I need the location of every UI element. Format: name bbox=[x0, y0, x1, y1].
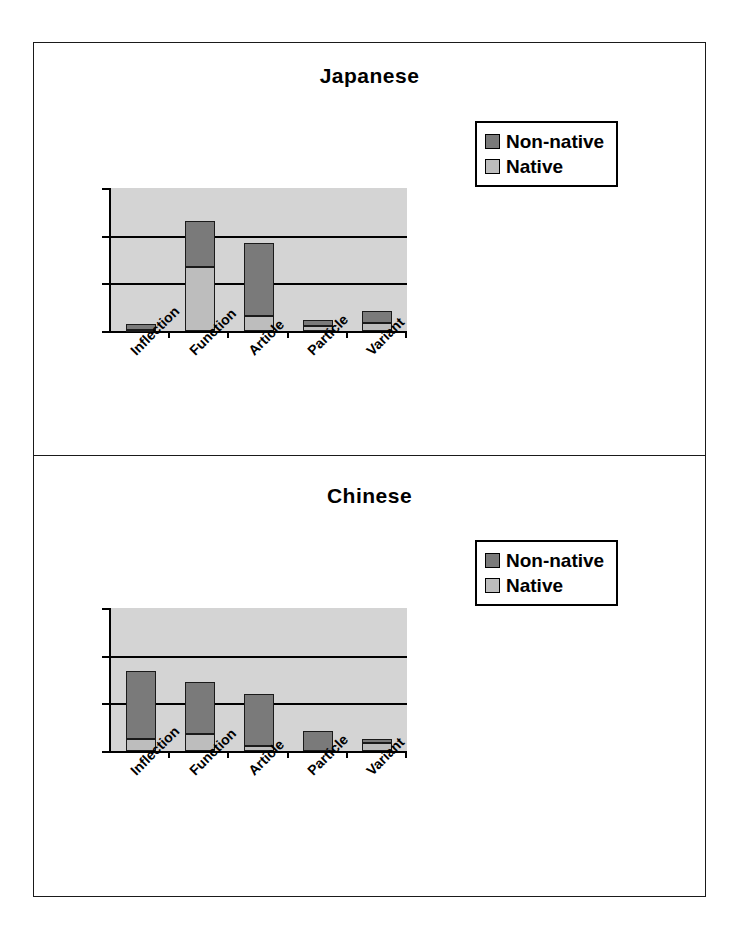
legend-chinese: Non-native Native bbox=[475, 540, 618, 606]
gridline-40 bbox=[111, 656, 407, 658]
x-axis-tick-mark bbox=[168, 751, 170, 758]
x-axis-tick-mark bbox=[227, 751, 229, 758]
legend-label-native: Native bbox=[506, 157, 563, 176]
figure-page: Japanese Non-native Native 0204060Inflec… bbox=[0, 0, 740, 939]
legend-label-non-native: Non-native bbox=[506, 132, 604, 151]
bar-segment-non-native bbox=[244, 694, 274, 746]
bar-segment-non-native bbox=[185, 682, 215, 734]
y-axis-tick-mark bbox=[102, 608, 109, 610]
x-axis-tick-mark bbox=[346, 331, 348, 338]
bar-article bbox=[244, 243, 274, 331]
x-axis-tick-mark bbox=[287, 751, 289, 758]
legend-japanese: Non-native Native bbox=[475, 121, 618, 187]
y-axis-tick-mark bbox=[102, 656, 109, 658]
chart-title-japanese: Japanese bbox=[33, 64, 706, 88]
y-axis-tick-mark bbox=[102, 283, 109, 285]
legend-label-non-native: Non-native bbox=[506, 551, 604, 570]
x-axis-tick-mark bbox=[287, 331, 289, 338]
bar-segment-non-native bbox=[244, 243, 274, 316]
bar-function bbox=[185, 221, 215, 331]
legend-swatch-non-native-icon bbox=[485, 553, 500, 568]
bar-function bbox=[185, 682, 215, 751]
x-axis-tick-mark bbox=[227, 331, 229, 338]
plot-background bbox=[109, 608, 407, 753]
legend-label-native: Native bbox=[506, 576, 563, 595]
y-axis-tick-mark bbox=[102, 703, 109, 705]
legend-entry-non-native: Non-native bbox=[485, 548, 604, 573]
bar-inflection bbox=[126, 671, 156, 751]
chart-title-chinese: Chinese bbox=[33, 484, 706, 508]
legend-swatch-native-icon bbox=[485, 578, 500, 593]
chart-panel-chinese: Chinese Non-native Native 0204060Inflect… bbox=[33, 456, 706, 897]
gridline-40 bbox=[111, 236, 407, 238]
legend-entry-native: Native bbox=[485, 154, 604, 179]
x-axis-tick-mark bbox=[405, 331, 407, 338]
legend-entry-native: Native bbox=[485, 573, 604, 598]
legend-entry-non-native: Non-native bbox=[485, 129, 604, 154]
chart-panel-japanese: Japanese Non-native Native 0204060Inflec… bbox=[33, 42, 706, 455]
x-axis-tick-mark bbox=[346, 751, 348, 758]
y-axis-tick-mark bbox=[102, 331, 109, 333]
y-axis-tick-mark bbox=[102, 236, 109, 238]
y-axis-tick-mark bbox=[102, 751, 109, 753]
y-axis-tick-mark bbox=[102, 188, 109, 190]
plot-background bbox=[109, 188, 407, 333]
x-axis-tick-mark bbox=[168, 331, 170, 338]
x-axis-tick-mark bbox=[405, 751, 407, 758]
bar-segment-non-native bbox=[185, 221, 215, 266]
bar-segment-non-native bbox=[126, 671, 156, 739]
legend-swatch-native-icon bbox=[485, 159, 500, 174]
legend-swatch-non-native-icon bbox=[485, 134, 500, 149]
